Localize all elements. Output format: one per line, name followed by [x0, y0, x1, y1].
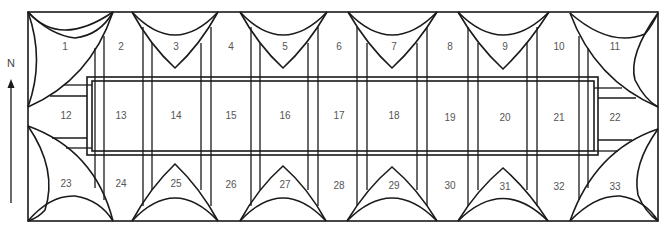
bay-label-1: 1	[62, 41, 68, 52]
bay-label-13: 13	[115, 110, 127, 121]
bay-label-5: 5	[282, 41, 288, 52]
bay-label-18: 18	[388, 110, 400, 121]
bay-label-27: 27	[279, 179, 291, 190]
bay-label-33: 33	[609, 181, 621, 192]
vault-bay-27	[240, 166, 326, 221]
bay-label-31: 31	[499, 181, 511, 192]
bay-label-17: 17	[333, 110, 345, 121]
bay-label-4: 4	[228, 41, 234, 52]
bay-label-29: 29	[388, 180, 400, 191]
vault-bay-29	[347, 167, 437, 221]
bay-label-7: 7	[391, 41, 397, 52]
corner-vault-se	[570, 129, 658, 221]
bay-label-30: 30	[444, 180, 456, 191]
bay-label-12: 12	[60, 110, 72, 121]
bay-label-28: 28	[333, 180, 345, 191]
bay-label-25: 25	[170, 178, 182, 189]
vault-bay-25	[132, 164, 218, 221]
corner-vault-ne	[570, 13, 658, 107]
bay-label-8: 8	[447, 41, 453, 52]
bay-label-14: 14	[170, 110, 182, 121]
corner-vault-nw	[28, 12, 113, 107]
bay-label-32: 32	[553, 181, 565, 192]
bay-label-19: 19	[444, 112, 456, 123]
vault-floor-plan: N	[0, 0, 668, 230]
north-arrow: N	[7, 57, 15, 203]
bay-label-2: 2	[118, 41, 124, 52]
bay-label-10: 10	[553, 41, 565, 52]
bay-label-9: 9	[502, 41, 508, 52]
bay-label-26: 26	[225, 179, 237, 190]
bay-label-23: 23	[60, 178, 72, 189]
bay-label-3: 3	[173, 41, 179, 52]
north-arrow-head-icon	[8, 79, 15, 88]
bay-label-24: 24	[115, 178, 127, 189]
bay-label-16: 16	[279, 110, 291, 121]
bay-label-22: 22	[609, 112, 621, 123]
bay-label-6: 6	[336, 41, 342, 52]
vault-bay-31	[458, 168, 548, 221]
bay-label-11: 11	[610, 41, 621, 52]
corner-vault-sw	[28, 126, 113, 221]
bay-label-20: 20	[499, 112, 511, 123]
south-vaults	[132, 164, 548, 221]
bay-label-15: 15	[225, 110, 237, 121]
north-label: N	[7, 57, 15, 69]
bay-label-21: 21	[553, 112, 565, 123]
